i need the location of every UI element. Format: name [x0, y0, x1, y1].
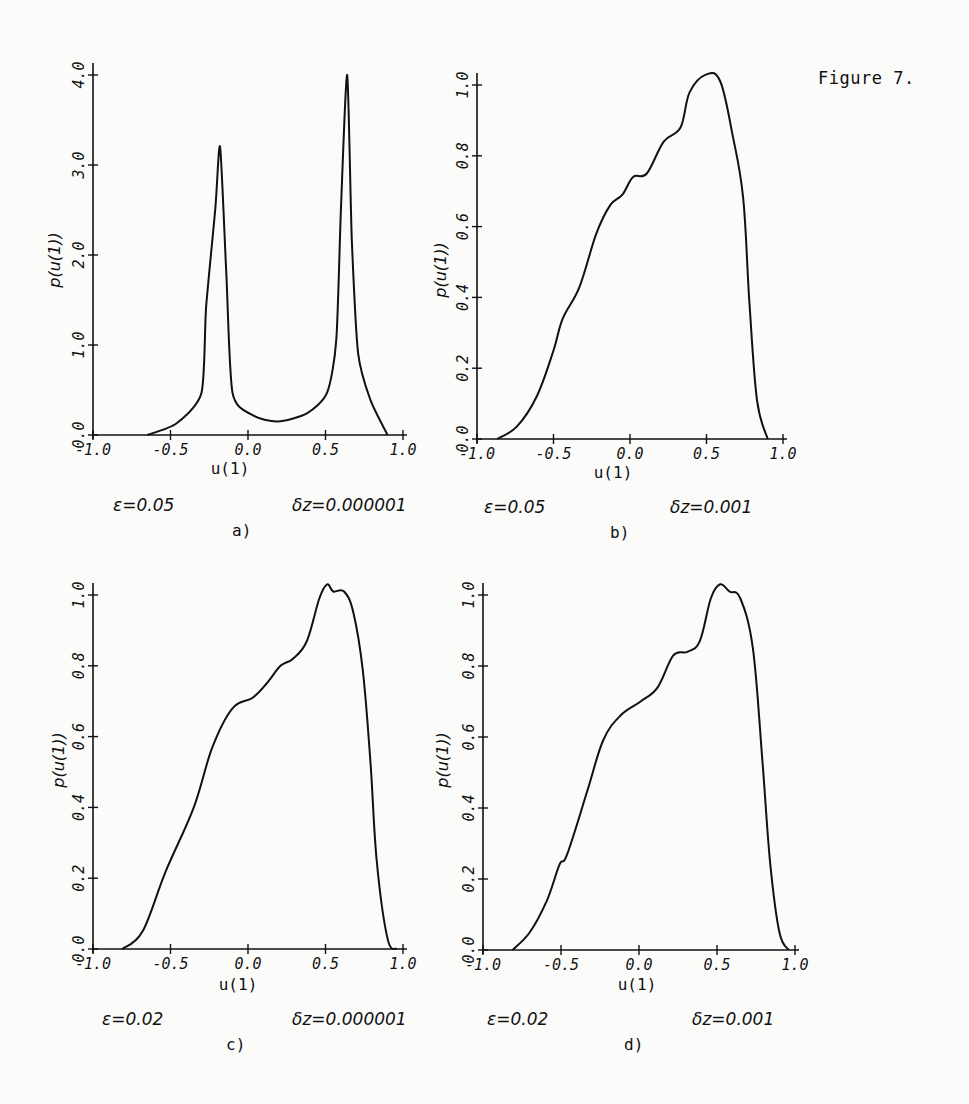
y-tick-label: 0.8: [460, 652, 478, 679]
x-tick-label: 0.0: [234, 441, 261, 459]
y-tick-label: 3.0: [70, 151, 88, 179]
x-tick-label: 0.5: [703, 956, 730, 974]
y-tick-label: 2.0: [70, 241, 88, 268]
y-tick-label: 1.0: [460, 581, 478, 608]
panel-a: u(1) p(u(1)) ε=0.05 δz=0.000001 a) -1.0-…: [45, 61, 417, 540]
y-axis-label: p(u(1)): [431, 242, 450, 298]
epsilon-label: ε=0.02: [102, 1009, 163, 1029]
y-tick-label: 0.0: [460, 936, 478, 963]
panel-d: u(1) p(u(1)) ε=0.02 δz=0.001 d) -1.0-0.5…: [433, 581, 809, 1054]
x-tick-label: 0.0: [625, 956, 652, 974]
y-tick-label: 0.0: [70, 935, 88, 962]
x-axis-label: u(1): [618, 975, 657, 994]
dz-label: δz=0.001: [670, 497, 752, 517]
y-tick-label: 0.4: [454, 284, 472, 311]
panel-label: a): [232, 521, 251, 540]
x-tick-label: -0.5: [543, 956, 579, 974]
dz-label: δz=0.000001: [292, 1009, 407, 1029]
x-tick-label: 1.0: [389, 955, 416, 973]
y-tick-label: 0.8: [454, 142, 472, 169]
dz-label: δz=0.001: [692, 1009, 774, 1029]
y-tick-label: 0.6: [454, 213, 472, 240]
x-axis-label: u(1): [211, 459, 250, 478]
figure-title: Figure 7.: [818, 68, 915, 88]
y-tick-label: 1.0: [70, 581, 88, 608]
y-tick-label: 0.0: [454, 425, 472, 452]
y-axis-label: p(u(1)): [45, 232, 64, 288]
density-curve: [497, 73, 768, 439]
x-tick-label: 1.0: [389, 441, 416, 459]
x-tick-label: -0.5: [152, 441, 188, 459]
density-curve: [122, 584, 396, 949]
x-tick-label: 1.0: [769, 445, 796, 463]
x-tick-label: -0.5: [535, 445, 571, 463]
panel-label: d): [624, 1035, 643, 1054]
y-tick-label: 0.2: [454, 355, 472, 382]
y-tick-label: 0.2: [70, 865, 88, 892]
y-tick-label: 0.4: [70, 794, 88, 821]
figure: Figure 7. u(1) p(u(1)) ε=0.05 δz=0.00000…: [0, 0, 969, 1104]
x-tick-label: 0.5: [312, 441, 339, 459]
panel-c: u(1) p(u(1)) ε=0.02 δz=0.000001 c) -1.0-…: [49, 581, 417, 1054]
epsilon-label: ε=0.05: [484, 497, 545, 517]
y-tick-label: 1.0: [70, 331, 88, 358]
y-tick-label: 0.6: [460, 723, 478, 750]
y-tick-label: 0.0: [70, 421, 88, 448]
y-tick-label: 1.0: [454, 71, 472, 98]
x-axis-label: u(1): [594, 463, 633, 482]
dz-label: δz=0.000001: [292, 495, 407, 515]
x-tick-label: -0.5: [152, 955, 188, 973]
y-tick-label: 0.4: [460, 794, 478, 821]
y-axis-label: p(u(1)): [433, 732, 452, 788]
epsilon-label: ε=0.02: [487, 1009, 548, 1029]
y-tick-label: 0.8: [70, 652, 88, 679]
figure-panels: u(1) p(u(1)) ε=0.05 δz=0.000001 a) -1.0-…: [0, 0, 969, 1104]
panel-label: b): [610, 523, 629, 542]
x-tick-label: 0.5: [693, 445, 720, 463]
y-tick-label: 0.2: [460, 865, 478, 892]
x-tick-label: 0.0: [234, 955, 261, 973]
x-axis-label: u(1): [219, 975, 258, 994]
y-tick-label: 0.6: [70, 723, 88, 750]
y-tick-label: 4.0: [70, 61, 88, 88]
epsilon-label: ε=0.05: [113, 495, 174, 515]
density-curve: [513, 584, 789, 950]
x-tick-label: 1.0: [781, 956, 808, 974]
panel-b: u(1) p(u(1)) ε=0.05 δz=0.001 b) -1.0-0.5…: [431, 71, 797, 542]
x-tick-label: 0.0: [616, 445, 643, 463]
y-axis-label: p(u(1)): [49, 732, 68, 788]
density-curve: [147, 75, 387, 435]
panel-label: c): [226, 1035, 245, 1054]
x-tick-label: 0.5: [312, 955, 339, 973]
